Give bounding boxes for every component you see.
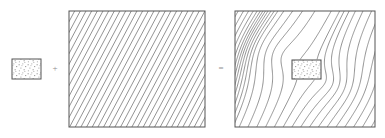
inclusion-patch-border bbox=[12, 59, 41, 79]
equation-figure: + = bbox=[0, 0, 385, 138]
perturbed-streamline-field bbox=[229, 5, 381, 133]
inclusion-patch bbox=[12, 59, 41, 79]
figure-canvas: + = bbox=[0, 0, 385, 138]
equals-operator: = bbox=[218, 63, 223, 73]
embedded-inclusion bbox=[292, 60, 321, 79]
plus-operator: + bbox=[52, 63, 57, 73]
